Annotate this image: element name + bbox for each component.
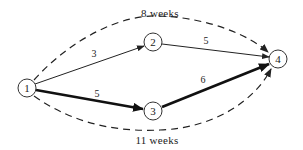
node-2-label: 2: [150, 36, 156, 48]
node-1-label: 1: [24, 82, 30, 94]
edge-1-2-label: 3: [92, 48, 97, 59]
edge-2-4: [162, 44, 269, 57]
upper-path-label: 8 weeks: [141, 7, 179, 19]
edge-1-3: [36, 90, 143, 109]
lower-path-label: 11 weeks: [135, 134, 178, 146]
node-1: 1: [18, 79, 36, 97]
node-3-label: 3: [150, 105, 156, 117]
network-diagram: 3 5 5 6 8 weeks 11 weeks 1 2 3 4: [0, 0, 303, 150]
edge-3-4-label: 6: [201, 74, 206, 85]
node-2: 2: [144, 33, 162, 51]
node-4: 4: [269, 50, 287, 68]
edge-3-4: [162, 64, 269, 107]
edge-1-3-label: 5: [95, 88, 100, 99]
node-4-label: 4: [275, 53, 281, 65]
edge-1-2: [35, 46, 144, 84]
node-3: 3: [144, 102, 162, 120]
edge-2-4-label: 5: [204, 35, 209, 46]
